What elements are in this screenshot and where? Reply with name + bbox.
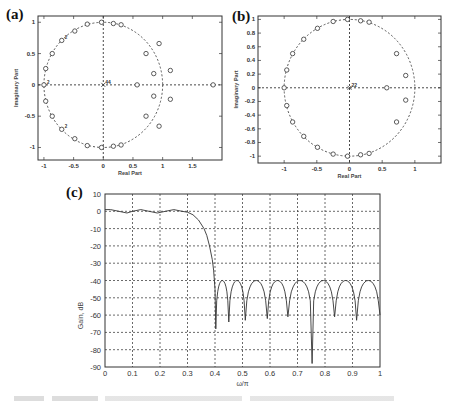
zero-marker	[144, 51, 148, 55]
x-tick-label: 1	[378, 369, 382, 378]
x-tick-label: 0.4	[210, 369, 220, 378]
x-tick-label: 0.1	[127, 369, 137, 378]
zero-multiplicity: 2	[65, 35, 68, 40]
zero-marker	[367, 151, 371, 155]
y-tick-label: -0.4	[245, 112, 256, 118]
gain-response-plot: 00.10.20.30.40.50.60.70.80.91100-10-20-3…	[77, 190, 382, 387]
y-tick-label: -80	[90, 346, 101, 355]
zero-marker	[367, 20, 371, 24]
x-tick-label: 0.5	[378, 166, 387, 172]
zero-marker	[331, 19, 335, 23]
zero-marker	[290, 51, 294, 55]
y-tick-label: -60	[90, 311, 101, 320]
y-tick-label: -30	[90, 259, 101, 268]
zero-marker	[302, 37, 306, 41]
x-tick-label: 1	[161, 163, 165, 169]
x-tick-label: 0.3	[182, 369, 192, 378]
zero-marker	[50, 114, 54, 118]
zero-marker	[290, 120, 294, 124]
y-tick-label: -50	[90, 294, 101, 303]
zero-marker	[111, 21, 115, 25]
zero-marker	[60, 38, 64, 42]
y-tick-label: 1	[32, 19, 36, 25]
zero-marker	[152, 94, 156, 98]
y-tick-label: 0.8	[247, 30, 256, 36]
zero-marker	[302, 134, 306, 138]
zero-marker	[144, 114, 148, 118]
x-tick-label: 0	[348, 166, 352, 172]
y-tick-label: 0.2	[247, 71, 256, 77]
y-tick-label: -0.5	[25, 113, 36, 119]
y-tick-label: 0.4	[247, 57, 256, 63]
y-axis-label: Imaginary Part	[233, 70, 239, 108]
y-tick-label: 0	[32, 82, 36, 88]
zero-marker	[44, 99, 48, 103]
y-tick-label: 10	[93, 190, 101, 199]
zero-marker	[60, 127, 64, 131]
zero-marker	[50, 51, 54, 55]
x-tick-label: 0.2	[155, 369, 165, 378]
zero-marker	[404, 98, 408, 102]
zero-marker	[157, 124, 161, 128]
y-tick-label: -0.2	[245, 98, 256, 104]
y-tick-label: -90	[90, 363, 101, 372]
zero-marker	[119, 143, 123, 147]
zero-marker	[44, 66, 48, 70]
pole-multiplicity: 22	[352, 82, 358, 88]
zero-multiplicity: 2	[47, 80, 50, 85]
x-tick-label: -0.5	[68, 163, 79, 169]
figure-caption-truncated	[14, 396, 394, 401]
x-tick-label: -1	[41, 163, 47, 169]
y-tick-label: -20	[90, 242, 101, 251]
x-tick-label: 1	[413, 166, 417, 172]
x-tick-label: 0	[102, 163, 106, 169]
x-axis-label: Real Part	[118, 170, 142, 176]
y-tick-label: -0.8	[245, 139, 256, 145]
pole-zero-plot-a: -1-0.500.511.510.50-0.5-1Real PartImagin…	[13, 16, 222, 176]
zero-marker	[157, 41, 161, 45]
zero-marker	[285, 68, 289, 72]
zero-marker	[42, 83, 46, 87]
y-tick-label: -70	[90, 328, 101, 337]
zero-marker	[282, 86, 286, 90]
zero-marker	[358, 19, 362, 23]
x-tick-label: 0.6	[265, 369, 275, 378]
zero-marker	[385, 86, 389, 90]
zero-marker	[315, 145, 319, 149]
y-tick-label: 0.5	[27, 51, 36, 57]
y-tick-label: 0	[252, 85, 256, 91]
pole-multiplicity: 44	[105, 79, 111, 85]
x-tick-label: -1	[281, 166, 287, 172]
zero-marker	[73, 29, 77, 33]
y-axis-label: Imaginary Part	[13, 69, 19, 107]
zero-marker	[168, 97, 172, 101]
figure-canvas: -1-0.500.511.510.50-0.5-1Real PartImagin…	[0, 0, 455, 401]
y-tick-label: -1	[30, 144, 36, 150]
zero-marker	[85, 143, 89, 147]
pole-zero-plot-b: -1-0.500.5110.80.60.40.20-0.2-0.4-0.6-0.…	[233, 16, 441, 179]
zero-marker	[345, 17, 349, 21]
zero-marker	[85, 22, 89, 26]
y-tick-label: 0.6	[247, 44, 256, 50]
y-tick-label: 0	[97, 207, 101, 216]
x-tick-label: 0	[103, 369, 107, 378]
zero-marker	[285, 103, 289, 107]
x-tick-label: 0.8	[320, 369, 330, 378]
zero-marker	[345, 154, 349, 158]
x-axis-label: ω/π	[236, 380, 248, 387]
zero-marker	[99, 145, 103, 149]
zero-marker	[119, 23, 123, 27]
y-tick-label: -10	[90, 225, 101, 234]
y-tick-label: -0.6	[245, 126, 256, 132]
zero-marker	[394, 51, 398, 55]
x-tick-label: 1.5	[188, 163, 197, 169]
zero-marker	[358, 153, 362, 157]
x-tick-label: 0.5	[129, 163, 138, 169]
zero-multiplicity: 2	[65, 124, 68, 129]
y-tick-label: -40	[90, 277, 101, 286]
zero-marker	[99, 20, 103, 24]
x-axis-label: Real Part	[338, 173, 362, 179]
zero-marker	[211, 83, 215, 87]
y-axis-label: Gain, dB	[77, 302, 84, 330]
zero-marker	[315, 26, 319, 30]
